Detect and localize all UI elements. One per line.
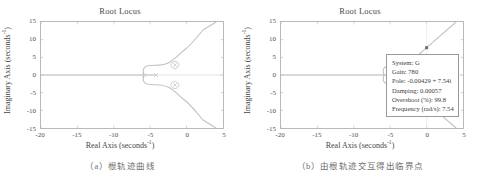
x-axis-title-text: Real Axis (seconds [326,141,387,150]
x-axis-title-b: Real Axis (seconds-1) [240,141,480,150]
x-tick-m10: -10 [109,131,118,139]
y-tick-15: 15 [269,17,276,25]
plot-area-b[interactable]: System: G Gain: 780 Pole: -0.00429 + 7.5… [280,21,464,129]
x-axis-title-text: Real Axis (seconds [86,141,147,150]
figure-row: Root Locus 15 10 5 0 -5 -10 -15 [0,0,480,179]
x-tick-m15: -15 [312,131,321,139]
y-tick-m5: -5 [30,89,36,97]
panel-a: Root Locus 15 10 5 0 -5 -10 -15 [0,0,240,179]
x-axis-title-tail: ) [152,141,155,150]
y-axis-title-tail: ) [3,27,12,30]
x-tick-m20: -20 [35,131,44,139]
data-tip-overshoot: Overshoot (%): 99.8 [392,95,454,104]
y-axis-title-tail: ) [243,27,252,30]
plot-title-b: Root Locus [240,6,480,16]
x-tick-0: 0 [425,131,429,139]
x-tick-m20: -20 [275,131,284,139]
data-tip-system: System: G [392,58,454,67]
x-tick-m15: -15 [72,131,81,139]
y-tick-m10: -10 [27,107,36,115]
y-tick-5: 5 [33,53,37,61]
y-axis-exponent: -1 [241,30,247,35]
y-tick-10: 10 [269,35,276,43]
data-tip-pole: Pole: -0.00429 + 7.54i [392,76,454,85]
y-axis-title-b: Imaginary Axis (seconds-1) [243,11,252,131]
y-tick-0: 0 [273,71,277,79]
y-tick-m10: -10 [267,107,276,115]
y-axis-exponent: -1 [1,30,7,35]
upper-branch-a [143,22,216,75]
data-tip-gain: Gain: 780 [392,67,454,76]
y-tick-10: 10 [29,35,36,43]
data-tip-box[interactable]: System: G Gain: 780 Pole: -0.00429 + 7.5… [386,54,459,117]
y-tick-m5: -5 [270,89,276,97]
plot-area-a[interactable] [40,21,224,129]
x-axis-title-a: Real Axis (seconds-1) [0,141,240,150]
plot-title-a: Root Locus [0,6,240,16]
caption-a: （a）根轨迹曲线 [0,159,240,171]
data-point-marker-b [425,46,428,49]
y-axis-title-text: Imaginary Axis (seconds [243,34,252,114]
y-axis-title-text: Imaginary Axis (seconds [3,34,12,114]
lower-branch-a [143,75,216,128]
panel-b: Root Locus 15 10 5 0 -5 -10 -15 [240,0,480,179]
x-tick-m10: -10 [349,131,358,139]
data-tip-frequency: Frequency (rad/s): 7.54 [392,104,454,113]
caption-b: （b）由根轨迹交互得出临界点 [240,159,480,171]
data-tip-damping: Damping: 0.00057 [392,86,454,95]
y-tick-5: 5 [273,53,277,61]
x-tick-5: 5 [222,131,226,139]
y-tick-15: 15 [29,17,36,25]
x-axis-title-tail: ) [392,141,395,150]
x-tick-m5: -5 [147,131,153,139]
y-tick-0: 0 [33,71,37,79]
x-tick-5: 5 [462,131,466,139]
y-axis-title-a: Imaginary Axis (seconds-1) [3,11,12,131]
root-locus-svg-a [41,22,223,128]
x-tick-0: 0 [185,131,189,139]
x-tick-m5: -5 [387,131,393,139]
